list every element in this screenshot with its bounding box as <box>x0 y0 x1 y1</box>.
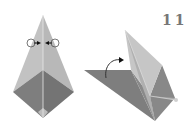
kite-figure <box>13 15 74 118</box>
raised-point-figure <box>84 30 178 121</box>
step-number: 11 <box>162 13 187 27</box>
